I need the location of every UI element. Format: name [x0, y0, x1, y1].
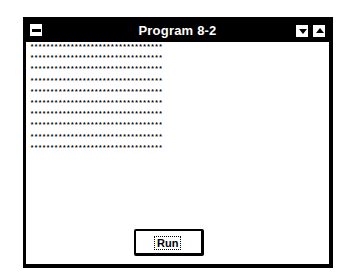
output-row: *********************************: [30, 42, 163, 53]
window-title: Program 8-2: [26, 23, 329, 38]
minimize-button[interactable]: [295, 24, 309, 38]
output-row: *********************************: [30, 132, 163, 143]
output-row: *********************************: [30, 87, 163, 98]
run-button[interactable]: Run: [134, 229, 204, 256]
maximize-arrow-icon: [316, 28, 324, 33]
output-row: *********************************: [30, 98, 163, 109]
output-row: *********************************: [30, 143, 163, 154]
program-window: Program 8-2 ****************************…: [23, 17, 333, 268]
output-row: *********************************: [30, 109, 163, 120]
output-row: *********************************: [30, 120, 163, 131]
output-row: *********************************: [30, 53, 163, 64]
output-rows: ********************************* ******…: [30, 42, 165, 154]
client-area: ********************************* ******…: [26, 42, 329, 264]
title-bar[interactable]: Program 8-2: [26, 20, 329, 42]
minimize-arrow-icon: [299, 29, 307, 34]
run-button-label: Run: [154, 236, 181, 250]
output-row: *********************************: [30, 64, 163, 75]
output-row: *********************************: [30, 76, 163, 87]
maximize-button[interactable]: [312, 24, 326, 38]
